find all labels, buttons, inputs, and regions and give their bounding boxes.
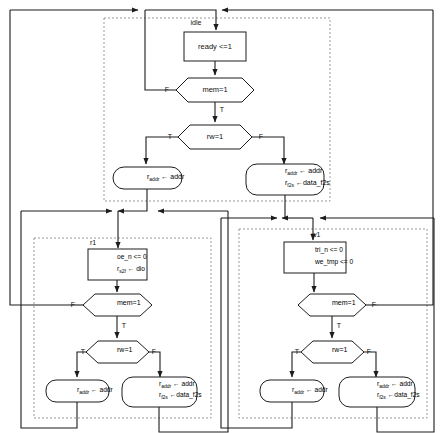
edge-r1-rw-false: [149, 352, 160, 377]
edge-label-w1-rw-false: F: [367, 348, 371, 355]
edge-idle-read-down: [118, 189, 147, 211]
flowchart-canvas: idle r1 w1 ready <=1 mem=1 F T rw=1 T F …: [0, 0, 442, 433]
node-r1-rw-label: rw=1: [117, 346, 132, 353]
node-idle-action-label: ready <=1: [198, 42, 232, 51]
node-w1-mem-label: mem=1: [332, 299, 356, 306]
group-label-idle: idle: [191, 19, 202, 26]
edge-r1-rw-true: [77, 352, 86, 377]
node-w1-action-line1: tri_n <= 0: [315, 246, 343, 254]
edge-label-r1-rw-true: T: [81, 348, 86, 355]
group-label-w1: w1: [311, 231, 321, 238]
edge-label-w1-mem-false: F: [372, 301, 376, 308]
edge-idle-write-down: [282, 195, 285, 218]
edge-idle-rw-true: [146, 137, 178, 164]
node-w1-action-line2: we_tmp <= 0: [314, 258, 353, 266]
edge-label-r1-mem-false: F: [71, 301, 75, 308]
node-r1-action-line1: oe_n <= 0: [117, 253, 147, 261]
edge-left-rail: [10, 10, 70, 305]
node-idle-rw-label: rw=1: [207, 132, 223, 141]
edge-label-w1-mem-true: T: [337, 322, 342, 329]
edge-label-idle-mem-false: F: [165, 86, 169, 93]
edge-idle-entry: [145, 10, 216, 30]
edge-label-r1-mem-true: T: [122, 322, 127, 329]
edge-right-rail: [378, 10, 433, 305]
node-idle-mem-label: mem=1: [202, 85, 227, 94]
edge-label-idle-mem-true: T: [220, 106, 225, 113]
edge-idle-rw-false: [252, 137, 284, 164]
group-label-r1: r1: [90, 239, 96, 246]
edge-w1-rw-false: [364, 352, 376, 377]
edge-label-w1-rw-true: T: [295, 348, 300, 355]
edge-label-r1-rw-false: F: [152, 348, 156, 355]
edge-label-idle-rw-false: F: [259, 133, 263, 140]
node-r1-mem-label: mem=1: [117, 299, 141, 306]
edge-label-idle-rw-true: T: [168, 133, 173, 140]
edge-idle-mem-false: [145, 18, 176, 90]
edge-w1-rw-true: [292, 352, 301, 377]
node-w1-rw-label: rw=1: [332, 346, 347, 353]
